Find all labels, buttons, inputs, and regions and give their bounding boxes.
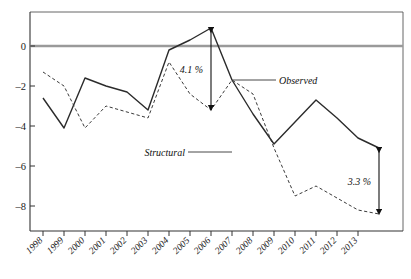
annotations-group: 4.1 %3.3 %ObservedStructural [144,30,379,212]
x-tick-label: 2000 [66,235,87,256]
x-tick-label: 2007 [213,234,234,255]
y-tick-label: –4 [15,121,27,132]
y-tick-label: –2 [15,81,27,92]
y-axis-ticks [30,46,35,206]
line-chart-svg: 4.1 %3.3 %ObservedStructural 0–2–4–6–8 1… [0,0,411,279]
x-axis-labels: 1998199920002001200220032004200520062007… [24,234,360,255]
x-tick-label: 1998 [24,235,45,256]
x-tick-label: 2008 [234,235,255,256]
chart-container: 4.1 %3.3 %ObservedStructural 0–2–4–6–8 1… [0,0,411,279]
y-tick-label: –6 [15,161,27,172]
series-label-observed: Observed [279,75,318,86]
x-tick-label: 2001 [87,235,108,256]
x-tick-label: 2012 [318,235,339,256]
series-label-structural: Structural [144,147,185,158]
x-tick-label: 1999 [45,235,66,256]
x-tick-label: 2013 [339,235,360,256]
x-tick-label: 2004 [150,235,171,256]
x-axis-ticks [43,231,358,236]
x-tick-label: 2010 [276,235,297,256]
y-axis-labels: 0–2–4–6–8 [15,41,27,212]
x-tick-label: 2009 [255,235,276,256]
x-tick-label: 2011 [297,235,317,255]
x-tick-label: 2006 [192,235,213,256]
y-tick-label: 0 [21,41,26,52]
x-tick-label: 2005 [171,235,192,256]
y-tick-label: –8 [15,201,27,212]
annotation-label-gap-2006: 4.1 % [180,64,203,75]
annotation-label-gap-2014: 3.3 % [347,176,371,187]
x-tick-label: 2002 [108,235,129,256]
x-tick-label: 2003 [129,235,150,256]
